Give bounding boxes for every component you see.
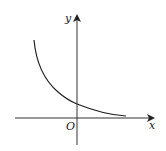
x-axis-label: x [149, 119, 156, 132]
function-curve [34, 40, 126, 116]
y-axis-label: y [64, 12, 72, 25]
function-graph: y x O [0, 0, 166, 151]
origin-label: O [66, 120, 75, 133]
